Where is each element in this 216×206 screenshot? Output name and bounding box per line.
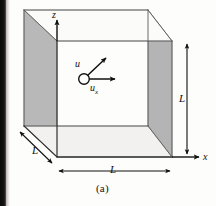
vector-label-ux-subscript: x: [95, 88, 98, 95]
vector-label-ux: ux: [90, 83, 98, 96]
axis-label-x: x: [203, 152, 207, 162]
vector-label-u: u: [75, 59, 80, 69]
figure-caption: (a): [96, 182, 109, 194]
figure-page: z x u ux L L L (a): [0, 0, 216, 206]
dimension-label-height: L: [179, 93, 185, 104]
dimension-label-width: L: [110, 164, 116, 175]
dimension-label-depth: L: [32, 145, 38, 156]
axis-label-z: z: [52, 10, 56, 20]
